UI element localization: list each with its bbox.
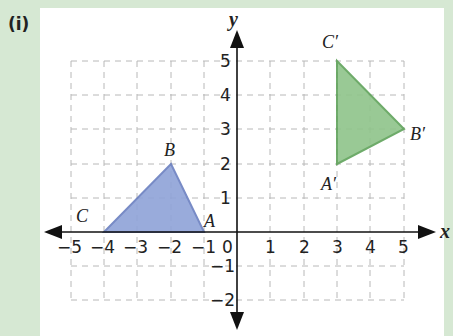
x-axis-right-arrow	[418, 225, 436, 239]
x-tick: −1	[191, 237, 216, 257]
y-axis-label: y	[227, 8, 238, 31]
y-tick: 1	[220, 188, 231, 208]
vertex-label-b-prime: B′	[410, 124, 426, 144]
y-tick: 5	[220, 51, 231, 71]
vertex-label-a: A	[203, 211, 216, 231]
x-tick: −3	[123, 237, 148, 257]
vertex-label-b: B	[164, 140, 175, 160]
x-tick: 1	[265, 237, 276, 257]
y-tick: −2	[210, 290, 235, 310]
vertex-label-c: C	[76, 206, 89, 226]
vertex-label-a-prime: A′	[320, 174, 337, 194]
y-tick: −1	[210, 256, 235, 276]
y-axis-up-arrow	[230, 30, 244, 48]
origin-label: 0	[222, 237, 233, 257]
y-tick: 3	[220, 119, 231, 139]
x-tick: −4	[90, 237, 115, 257]
x-tick: 4	[365, 237, 376, 257]
x-tick: −5	[57, 237, 82, 257]
coordinate-plane: x y −5 −4 −3 −2 −1 0 1 2 3 4 5 5 4 3 2 1…	[0, 0, 453, 336]
y-tick: 4	[220, 85, 231, 105]
vertex-label-c-prime: C′	[322, 32, 339, 52]
x-tick: −2	[157, 237, 182, 257]
x-tick: 5	[398, 237, 409, 257]
x-tick: 3	[332, 237, 343, 257]
x-tick: 2	[299, 237, 310, 257]
y-tick: 2	[220, 154, 231, 174]
y-axis-down-arrow	[230, 312, 244, 330]
x-axis-label: x	[439, 220, 450, 242]
